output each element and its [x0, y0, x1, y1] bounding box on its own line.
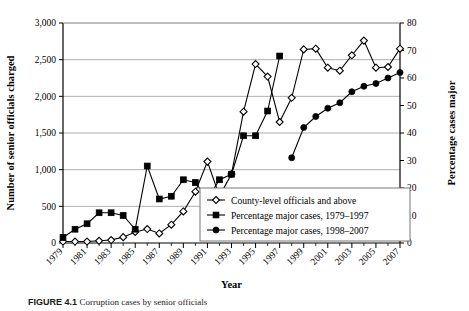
chart-canvas: 05001,0001,5002,0002,5003,00001020304050…	[0, 0, 469, 311]
legend: County-level officials and abovePercenta…	[200, 188, 410, 241]
data-point	[144, 163, 150, 169]
data-point	[168, 193, 174, 199]
legend-marker	[213, 212, 219, 218]
legend-label: Percentage major cases, 1979–1997	[231, 210, 369, 221]
x-tick-label: 1999	[285, 246, 306, 267]
y2-tick-label: 80	[407, 18, 417, 28]
x-tick-label: 1991	[188, 246, 209, 267]
y-axis-title: Number of senior officials charged	[5, 55, 16, 210]
data-point	[60, 235, 66, 241]
data-point	[84, 221, 90, 227]
x-tick-label: 1983	[92, 246, 113, 267]
x-axis-title: Year	[221, 279, 242, 290]
data-point	[361, 83, 367, 89]
data-point	[180, 177, 186, 183]
x-axis-ticks: 1979198119831985198719891991199319951997…	[44, 243, 402, 267]
figure-caption-label: FIGURE 4.1	[28, 297, 77, 307]
figure-caption: FIGURE 4.1 Corruption cases by senior of…	[28, 297, 207, 311]
data-point	[301, 125, 307, 131]
data-point	[349, 89, 355, 95]
data-point	[132, 226, 138, 232]
figure-caption-text: Corruption cases by senior officials	[80, 297, 208, 307]
legend-label: County-level officials and above	[231, 195, 356, 206]
y-tick-label: 1,000	[35, 165, 57, 175]
data-point	[397, 70, 403, 76]
y2-tick-label: 30	[407, 156, 417, 166]
data-point	[265, 108, 271, 114]
y-tick-label: 500	[42, 202, 57, 212]
y-tick-label: 2,000	[35, 92, 57, 102]
x-tick-label: 1997	[261, 246, 282, 267]
data-point	[96, 210, 102, 216]
data-point	[229, 171, 235, 177]
data-point	[325, 105, 331, 111]
x-tick-label: 1989	[164, 246, 185, 267]
data-point	[313, 114, 319, 120]
x-tick-label: 2007	[381, 246, 402, 267]
data-point	[156, 196, 162, 202]
y2-tick-label: 60	[407, 73, 417, 83]
data-point	[108, 210, 114, 216]
data-point	[72, 226, 78, 232]
data-point	[289, 155, 295, 161]
x-tick-label: 2005	[357, 246, 378, 267]
y2-axis-title: Percentage cases major	[446, 80, 457, 185]
data-point	[373, 81, 379, 87]
y-tick-label: 2,500	[35, 55, 57, 65]
x-tick-label: 1987	[140, 246, 161, 267]
data-point	[277, 53, 283, 59]
y-axis-ticks: 05001,0001,5002,0002,5003,000	[35, 18, 63, 248]
data-point	[337, 100, 343, 106]
y2-tick-label: 40	[407, 128, 417, 138]
x-tick-label: 1981	[68, 246, 89, 267]
x-tick-label: 1993	[212, 246, 233, 267]
x-tick-label: 1995	[236, 246, 257, 267]
y-tick-label: 1,500	[35, 128, 57, 138]
x-tick-label: 2001	[309, 246, 330, 267]
x-tick-label: 1985	[116, 246, 137, 267]
y-tick-label: 3,000	[35, 18, 57, 28]
y2-tick-label: 50	[407, 101, 417, 111]
x-tick-label: 1979	[44, 246, 65, 267]
data-point	[217, 177, 223, 183]
data-point	[120, 213, 126, 219]
figure-container: 05001,0001,5002,0002,5003,00001020304050…	[0, 0, 469, 311]
data-point	[192, 180, 198, 186]
legend-label: Percentage major cases, 1998–2007	[231, 225, 369, 236]
data-point	[385, 75, 391, 81]
data-point	[253, 133, 259, 139]
x-tick-label: 2003	[333, 246, 354, 267]
y2-tick-label: 70	[407, 46, 417, 56]
legend-marker	[213, 227, 219, 233]
data-point	[241, 133, 247, 139]
